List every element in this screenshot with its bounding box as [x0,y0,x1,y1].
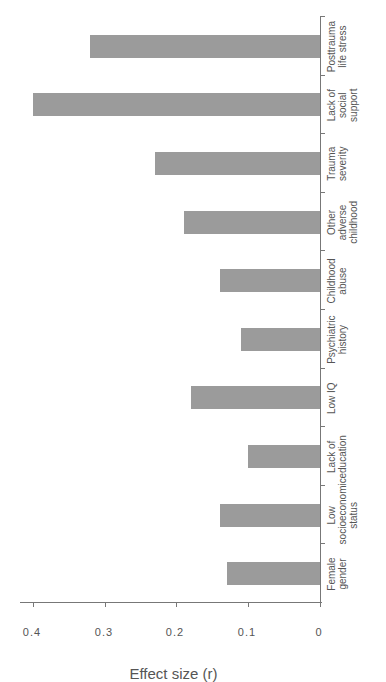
x-tick [320,75,325,76]
y-tick [33,602,34,607]
x-tick-label: Female gender [326,545,348,603]
x-tick [320,309,325,310]
x-tick [320,192,325,193]
y-tick [320,602,321,607]
y-tick-label: 0 [299,626,339,638]
y-tick [248,602,249,607]
y-tick-label: 0.4 [12,626,52,638]
bar [184,211,320,234]
bar [248,445,320,468]
x-tick [320,426,325,427]
y-tick-label: 0.1 [227,626,267,638]
x-tick-label: Other adverse childhood [326,193,359,251]
bar [220,269,320,292]
y-tick-label: 0.2 [155,626,195,638]
x-tick-label: Trauma severity [326,135,348,193]
x-tick-label: Low IQ [326,369,337,427]
x-tick-label: Psychiatric history [326,311,348,369]
y-tick [176,602,177,607]
x-tick-label: Childhood abuse [326,252,348,310]
bar [155,152,320,175]
x-tick [320,133,325,134]
x-tick-label: Lack of social support [326,76,359,134]
x-axis-line [320,17,321,603]
x-tick [320,485,325,486]
bar [241,328,320,351]
bar [33,93,320,116]
y-tick-label: 0.3 [84,626,124,638]
x-tick-label: Low socioeconomic status [326,486,359,544]
x-tick [320,368,325,369]
x-tick-label: Lack of education [326,428,348,486]
bar [191,386,320,409]
y-axis-line [20,602,322,603]
y-tick [105,602,106,607]
x-tick [320,543,325,544]
y-axis-title: Effect size (r) [109,665,239,682]
bar [227,562,320,585]
x-tick-label: Posttrauma life stress [326,18,348,76]
x-tick [320,250,325,251]
bar [90,35,320,58]
bar [220,504,320,527]
x-tick [320,16,325,17]
